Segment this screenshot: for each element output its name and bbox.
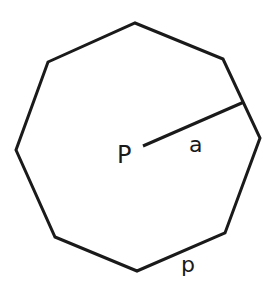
- center-label: P: [117, 141, 131, 169]
- perimeter-label: p: [181, 252, 195, 277]
- octagon-diagram: P a p: [0, 0, 278, 300]
- apothem-label: a: [189, 132, 202, 157]
- octagon-outline: [16, 23, 260, 271]
